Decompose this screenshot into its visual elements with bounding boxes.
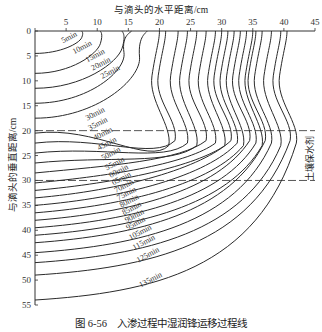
wetting-front-curve [35, 31, 250, 220]
y-tick-label: 45 [22, 250, 32, 260]
x-tick-label: 10 [93, 17, 103, 27]
y-tick-label: 25 [22, 151, 32, 161]
wetting-front-curve [35, 31, 297, 300]
x-tick-label: 45 [311, 17, 321, 27]
x-tick-label: 30 [217, 17, 227, 27]
wetting-front-curve [35, 31, 188, 153]
figure-caption: 图 6-56 入渗过程中湿润锋运移过程线 [0, 315, 322, 330]
curve-label: 135min [138, 270, 164, 289]
plot-area: 5101520253035404505101520253035404550555… [0, 0, 322, 332]
x-tick-label: 20 [155, 17, 165, 27]
y-tick-label: 30 [22, 175, 32, 185]
x-tick-label: 5 [64, 17, 69, 27]
y-tick-label: 15 [22, 101, 32, 111]
y-tick-label: 50 [22, 275, 32, 285]
wetting-front-curve [35, 31, 124, 88]
y-tick-label: 5 [27, 51, 32, 61]
y-tick-label: 0 [27, 26, 32, 36]
y-tick-label: 20 [22, 126, 32, 136]
y-tick-label: 55 [22, 300, 32, 310]
y-tick-label: 10 [22, 76, 32, 86]
y-tick-label: 40 [22, 225, 32, 235]
wetting-front-curve [35, 31, 238, 205]
y-tick-label: 35 [22, 200, 32, 210]
curve-label: 5min [60, 29, 79, 45]
x-tick-label: 40 [279, 17, 289, 27]
wetting-front-curve [35, 31, 291, 275]
wetting-front-curve [35, 31, 225, 190]
wetting-front-curve [35, 31, 216, 183]
x-tick-label: 15 [124, 17, 134, 27]
wetting-front-chart: 与滴头的水平距离/cm 与滴头的垂直距离/cm 土壤保水剂 5101520253… [0, 0, 322, 332]
x-tick-label: 35 [248, 17, 258, 27]
x-tick-label: 25 [186, 17, 196, 27]
